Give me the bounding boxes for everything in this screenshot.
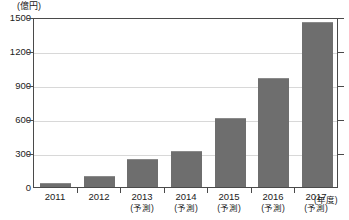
- x-axis-category: 2016(予測): [251, 191, 295, 214]
- x-axis-category-year: 2014: [164, 191, 208, 202]
- x-axis-category-year: 2012: [77, 191, 121, 202]
- x-axis-category-forecast-note: (予測): [207, 203, 251, 214]
- x-axis-category-forecast-note: (予測): [164, 203, 208, 214]
- x-axis-unit-label: (年度): [314, 195, 338, 205]
- x-axis-category-labels: 201120122013(予測)2014(予測)2015(予測)2016(予測)…: [33, 191, 338, 219]
- x-axis-category-year: 2016: [251, 191, 295, 202]
- bar: [302, 22, 333, 187]
- bar: [127, 159, 158, 187]
- bar: [84, 176, 115, 187]
- y-axis-tick-right: [337, 18, 344, 19]
- x-axis-category-forecast-note: (予測): [251, 203, 295, 214]
- y-axis-unit-label: (億円): [17, 1, 41, 12]
- bars-group: [34, 19, 337, 187]
- x-axis-category: 2011: [33, 191, 77, 202]
- x-axis-category-year: 2013: [120, 191, 164, 202]
- x-axis-category-year: 2015: [207, 191, 251, 202]
- x-axis-category: 2015(予測): [207, 191, 251, 214]
- bar: [258, 78, 289, 187]
- x-axis-category-forecast-note: (予測): [120, 203, 164, 214]
- bar: [40, 183, 71, 187]
- bar-chart: (億円) 150012009006003000 201120122013(予測)…: [0, 0, 349, 220]
- x-axis-category: 2013(予測): [120, 191, 164, 214]
- x-axis-category: 2012: [77, 191, 121, 202]
- y-axis-tick-label: 0: [0, 183, 31, 193]
- plot-area: [33, 18, 338, 188]
- y-axis-tick-right: [337, 120, 344, 121]
- bar: [171, 151, 202, 187]
- x-axis-category: 2014(予測): [164, 191, 208, 214]
- x-axis-category-year: 2011: [33, 191, 77, 202]
- y-axis-tick-right: [337, 52, 344, 53]
- bar: [215, 118, 246, 187]
- y-axis-tick-right: [337, 86, 344, 87]
- y-axis-tick-right: [337, 154, 344, 155]
